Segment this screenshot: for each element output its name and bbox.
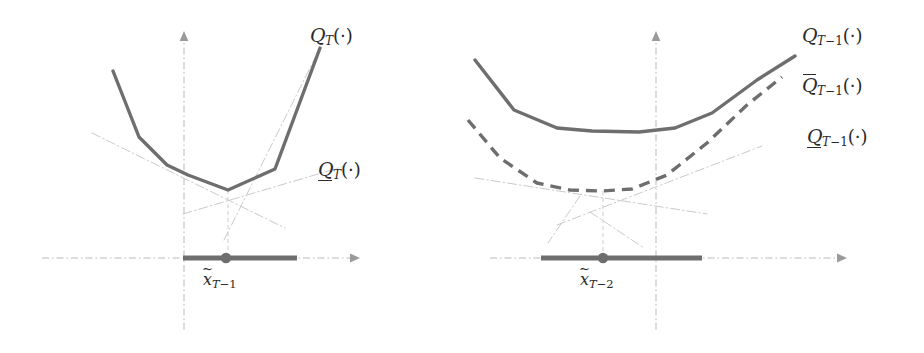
label-q-lower-stage-T-minus-1: QT−1(·) bbox=[807, 127, 868, 148]
label-q-upper-stage-T: QT(·) bbox=[310, 26, 353, 47]
stage-T-plot bbox=[0, 0, 462, 353]
q-curve-stage-T-minus-1 bbox=[475, 56, 795, 132]
cut-plane-descending bbox=[475, 178, 707, 214]
y-axis-arrowhead bbox=[652, 31, 661, 41]
q-curve-stage-T bbox=[113, 48, 320, 190]
label-q-bar-stage-T-minus-1: QT−1(·) bbox=[802, 76, 863, 97]
stage-T-panel: QT(·) QT(·) ~xT−1 bbox=[0, 0, 462, 353]
stage-T-minus-1-panel: QT−1(·) QT−1(·) QT−1(·) ~xT−2 bbox=[462, 0, 924, 353]
x-tick-label-stage-T: ~xT−1 bbox=[203, 270, 237, 291]
x-tick-label-stage-T-minus-1: ~xT−2 bbox=[580, 270, 614, 291]
figure-root: QT(·) QT(·) ~xT−1 bbox=[0, 0, 924, 353]
cut-plane-ascending bbox=[557, 146, 762, 225]
stage-T-minus-1-plot bbox=[462, 0, 924, 353]
y-axis-arrowhead bbox=[180, 31, 189, 41]
cut-plane-steep bbox=[224, 52, 318, 240]
x-axis-arrowhead bbox=[350, 254, 360, 263]
solution-point bbox=[598, 253, 608, 263]
cut-plane-steep bbox=[590, 212, 644, 248]
cut-plane-descending bbox=[92, 133, 285, 228]
cut-plane-steep-secondary bbox=[548, 196, 580, 243]
label-q-lower-stage-T: QT(·) bbox=[318, 160, 361, 181]
label-q-upper-stage-T-minus-1: QT−1(·) bbox=[802, 26, 863, 47]
x-axis-arrowhead bbox=[837, 254, 847, 263]
solution-point bbox=[221, 253, 231, 263]
